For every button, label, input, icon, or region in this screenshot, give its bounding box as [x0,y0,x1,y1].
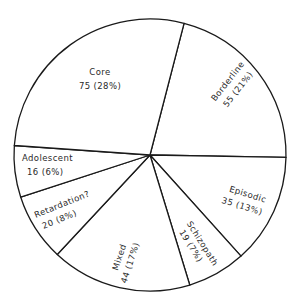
pie-chart: Core 75 (28%) Borderline 55 (21%) Episod… [0,0,293,306]
adolescent-name: Adolescent [22,153,73,163]
core-value: 75 (28%) [79,81,121,91]
core-name: Core [89,67,110,77]
adolescent-value: 16 (6%) [27,167,63,177]
